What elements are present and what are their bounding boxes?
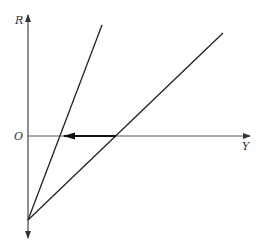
diagram-canvas: R O Y	[0, 0, 261, 249]
horizontal-axis-label: Y	[242, 140, 251, 153]
shallow-line	[28, 33, 223, 220]
vertical-axis-label: R	[14, 14, 23, 27]
steep-line	[28, 25, 102, 220]
origin-label: O	[14, 130, 23, 143]
